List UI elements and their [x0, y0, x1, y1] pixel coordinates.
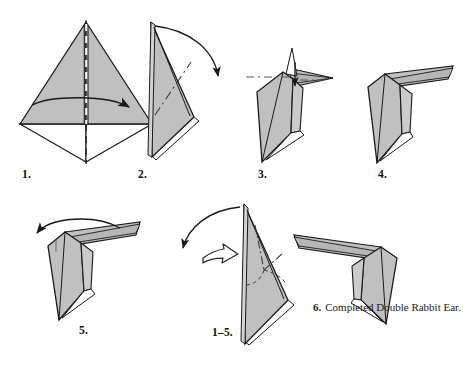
- figure-1-front-panel-left: [20, 22, 86, 124]
- figure-5-body-front: [48, 232, 84, 320]
- step-label-4: 4.: [378, 168, 387, 180]
- caption-number: 6.: [313, 301, 321, 313]
- figure-4-body-front: [368, 74, 402, 163]
- step-label-1: 1.: [22, 168, 31, 180]
- figure-1-5-fold-arrow: [183, 207, 240, 248]
- figure-1-front-panel-right: [86, 22, 152, 124]
- step-label-3: 3.: [258, 168, 267, 180]
- figure-3: [246, 48, 333, 162]
- figure-4-body-flap: [400, 85, 412, 134]
- figure-4: [368, 66, 453, 163]
- origami-diagram: 1. 2. 3. 4. 5. 1–5. 6.Completed Double R…: [0, 0, 463, 383]
- step-label-2: 2.: [138, 168, 147, 180]
- figure-3-body-front: [257, 72, 293, 162]
- step-label-1-5: 1–5.: [212, 326, 233, 338]
- completed-caption: 6.Completed Double Rabbit Ear.: [313, 300, 463, 316]
- figure-1-5: [183, 204, 294, 345]
- figure-2: [148, 22, 218, 160]
- figure-3-body-flap: [291, 79, 303, 133]
- caption-text: Completed Double Rabbit Ear.: [325, 301, 461, 313]
- figure-2-front-panel: [151, 22, 194, 157]
- figure-1-back-panel: [20, 124, 86, 162]
- step-label-5: 5.: [79, 324, 88, 336]
- figure-1-back-panel-right: [86, 124, 152, 162]
- figure-5: [37, 219, 140, 320]
- figure-1: [20, 22, 152, 164]
- figure-1-5-apply-steps-arrow: [203, 244, 238, 263]
- figure-1-5-front-panel: [244, 204, 288, 344]
